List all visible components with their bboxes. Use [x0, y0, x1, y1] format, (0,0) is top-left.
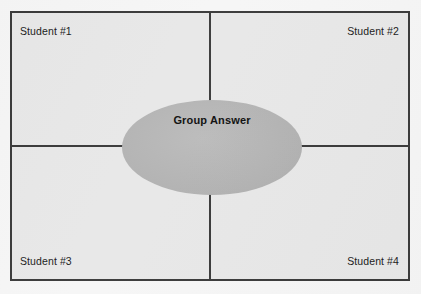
quadrant-label-student-3: Student #3 — [20, 255, 72, 268]
diagram-canvas: Student #1 Student #2 Student #3 Student… — [0, 0, 421, 294]
quadrant-label-student-1: Student #1 — [20, 25, 72, 38]
group-answer-label: Group Answer — [122, 114, 302, 126]
quadrant-matrix-frame: Student #1 Student #2 Student #3 Student… — [10, 11, 410, 281]
quadrant-label-student-2: Student #2 — [347, 25, 399, 38]
group-answer-ellipse: Group Answer — [122, 100, 302, 195]
quadrant-label-student-4: Student #4 — [347, 255, 399, 268]
